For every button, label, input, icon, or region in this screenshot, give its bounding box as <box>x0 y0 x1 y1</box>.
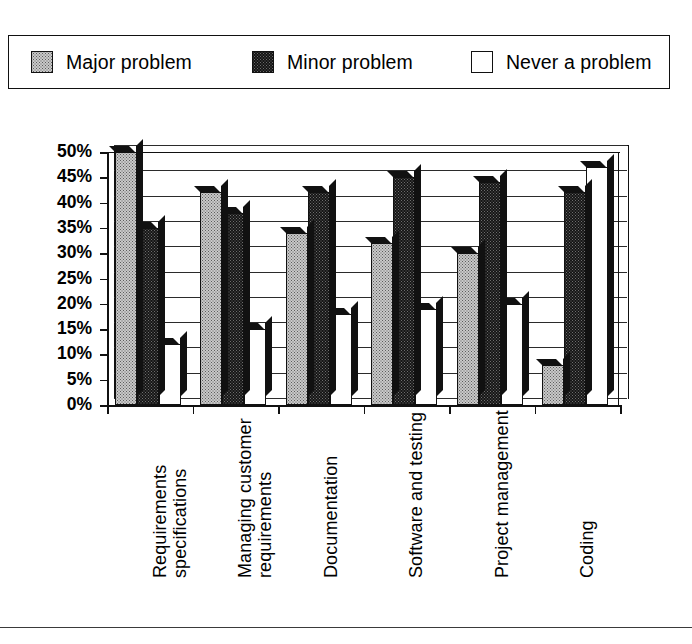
category-label: Software and testing <box>406 412 426 578</box>
value-axis-tick-label: 0% <box>34 396 92 414</box>
category-label: Coding <box>577 520 597 578</box>
category-axis-tick <box>364 405 366 414</box>
value-axis-tick-label: 15% <box>34 320 92 338</box>
category-axis-tick <box>449 405 451 414</box>
category-label-line: Requirements <box>150 465 170 578</box>
category-label-line: Software and testing <box>406 412 426 578</box>
category-label-line: Documentation <box>321 456 341 578</box>
value-axis-tick-label: 35% <box>34 219 92 237</box>
category-label: Documentation <box>321 456 341 578</box>
value-axis-tick-label: 45% <box>34 168 92 186</box>
bar-series-group <box>107 152 620 405</box>
bar-major <box>200 192 222 405</box>
value-axis-tick-label: 5% <box>34 371 92 389</box>
value-axis-tick-label: 30% <box>34 244 92 262</box>
category-label: Managing customerrequirements <box>235 418 275 578</box>
value-axis-tick-label: 20% <box>34 295 92 313</box>
value-axis-tick-label: 40% <box>34 194 92 212</box>
category-label-line: Project management <box>492 410 512 578</box>
value-axis-tick-label: 50% <box>34 143 92 161</box>
bar-major <box>457 253 479 405</box>
category-axis-tick <box>535 405 537 414</box>
category-label-line: requirements <box>255 418 275 578</box>
page-rule <box>0 627 692 628</box>
bar-major <box>542 365 564 405</box>
value-axis-tick-label: 10% <box>34 345 92 363</box>
chart-figure: Major problem Minor problem Never a prob… <box>0 0 692 644</box>
value-axis-tick-label: 25% <box>34 270 92 288</box>
category-label-line: Managing customer <box>235 418 255 578</box>
category-label-line: specifications <box>170 465 190 578</box>
category-axis-tick <box>107 405 109 414</box>
category-axis-tick <box>193 405 195 414</box>
bar-major <box>115 152 137 405</box>
category-label-line: Coding <box>577 520 597 578</box>
category-label: Requirementsspecifications <box>150 465 190 578</box>
category-axis-tick <box>620 405 622 414</box>
bar-major <box>371 243 393 405</box>
category-axis-tick <box>278 405 280 414</box>
bar-major <box>286 233 308 405</box>
category-label: Project management <box>492 410 512 578</box>
